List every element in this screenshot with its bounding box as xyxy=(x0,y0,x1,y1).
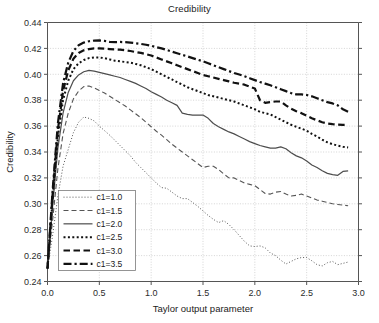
legend-label-c1-3-5: c1=3.5 xyxy=(97,259,123,269)
credibility-line-chart: 0.240.260.280.300.320.340.360.380.400.42… xyxy=(0,0,379,323)
y-tick-label: 0.26 xyxy=(24,251,42,261)
y-axis-title: Credibility xyxy=(4,131,15,173)
legend-label-c1-2-5: c1=2.5 xyxy=(97,232,123,242)
x-tick-label: 3.0 xyxy=(352,288,365,298)
y-tick-label: 0.42 xyxy=(24,44,42,54)
legend-label-c1-3-0: c1=3.0 xyxy=(97,246,123,256)
x-tick-label: 1.0 xyxy=(145,288,158,298)
x-tick-label: 2.0 xyxy=(249,288,262,298)
x-axis-title: Taylor output parameter xyxy=(153,303,253,314)
x-tick-label: 2.5 xyxy=(300,288,313,298)
y-tick-label: 0.24 xyxy=(24,277,42,287)
legend: c1=1.0c1=1.5c1=2.0c1=2.5c1=3.0c1=3.5 xyxy=(59,191,136,271)
y-tick-label: 0.38 xyxy=(24,95,42,105)
y-tick-label: 0.32 xyxy=(24,173,42,183)
y-tick-label: 0.34 xyxy=(24,147,42,157)
legend-label-c1-1-0: c1=1.0 xyxy=(97,192,123,202)
chart-figure: Credibility 0.240.260.280.300.320.340.36… xyxy=(0,0,379,323)
y-tick-label: 0.36 xyxy=(24,121,42,131)
y-tick-label: 0.28 xyxy=(24,225,42,235)
legend-label-c1-1-5: c1=1.5 xyxy=(97,206,123,216)
x-tick-label: 0.0 xyxy=(41,288,54,298)
legend-label-c1-2-0: c1=2.0 xyxy=(97,219,123,229)
y-tick-label: 0.40 xyxy=(24,70,42,80)
y-tick-label: 0.44 xyxy=(24,18,42,28)
x-tick-label: 0.5 xyxy=(93,288,106,298)
y-tick-label: 0.30 xyxy=(24,199,42,209)
x-tick-label: 1.5 xyxy=(197,288,210,298)
